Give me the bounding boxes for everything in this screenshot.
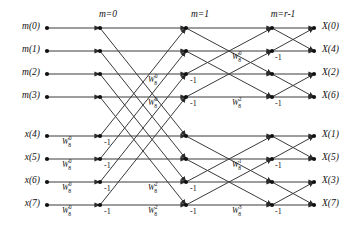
- flow-node: [98, 49, 102, 53]
- flow-node: [184, 49, 188, 53]
- flow-node: [98, 134, 102, 138]
- input-label-5: x(5): [2, 153, 40, 163]
- minus-one-label-0: -1: [104, 139, 111, 147]
- twiddle-exponent: 0: [69, 181, 72, 187]
- output-label-0: X(0): [322, 22, 339, 32]
- output-label-2: X(2): [322, 68, 339, 78]
- minus-one-label-6: -1: [190, 185, 197, 193]
- twiddle-subscript: 8: [154, 211, 157, 217]
- stage-header-0: m=0: [88, 9, 128, 19]
- flow-graph-canvas: [0, 0, 351, 233]
- input-label-0: m(0): [2, 22, 40, 32]
- twiddle-label-4: W08: [148, 74, 160, 86]
- twiddle-exponent: 2: [155, 181, 158, 187]
- flow-node: [45, 26, 49, 30]
- flow-node: [312, 203, 316, 207]
- twiddle-exponent: 0: [155, 73, 158, 79]
- twiddle-exponent: 0: [239, 50, 242, 56]
- flow-node: [312, 26, 316, 30]
- flow-node: [270, 26, 274, 30]
- minus-one-label-1: -1: [104, 162, 111, 170]
- twiddle-subscript: 8: [238, 103, 241, 109]
- fft-flow-graph-figure: m(0)m(1)m(2)m(3)x(4)x(5)x(6)x(7) X(0)X(4…: [0, 0, 351, 233]
- twiddle-subscript: 8: [154, 188, 157, 194]
- twiddle-subscript: 8: [68, 211, 71, 217]
- flow-node: [184, 134, 188, 138]
- flow-node: [45, 203, 49, 207]
- input-label-7: x(7): [2, 199, 40, 209]
- input-label-3: m(3): [2, 91, 40, 101]
- twiddle-exponent: 0: [69, 204, 72, 210]
- flow-node: [312, 180, 316, 184]
- twiddle-subscript: 8: [154, 80, 157, 86]
- output-label-1: X(4): [322, 45, 339, 55]
- twiddle-label-1: W08: [62, 159, 74, 171]
- flow-node: [312, 72, 316, 76]
- twiddle-subscript: 8: [68, 142, 71, 148]
- twiddle-exponent: 2: [239, 96, 242, 102]
- flow-node: [98, 180, 102, 184]
- twiddle-label-3: W08: [62, 205, 74, 217]
- flow-node: [45, 49, 49, 53]
- flow-node: [98, 72, 102, 76]
- flow-node: [184, 72, 188, 76]
- twiddle-label-2: W08: [62, 182, 74, 194]
- flow-node: [270, 49, 274, 53]
- flow-node: [45, 157, 49, 161]
- twiddle-exponent: 3: [239, 204, 242, 210]
- twiddle-exponent: 1: [239, 158, 242, 164]
- flow-node: [270, 157, 274, 161]
- flow-node: [98, 157, 102, 161]
- stage-header-2: m=r-1: [263, 9, 303, 19]
- flow-node: [312, 157, 316, 161]
- flow-node: [184, 95, 188, 99]
- flow-node: [98, 26, 102, 30]
- minus-one-label-9: -1: [275, 100, 282, 108]
- twiddle-label-6: W28: [148, 182, 160, 194]
- output-label-7: X(7): [322, 199, 339, 209]
- twiddle-label-5: W08: [148, 97, 160, 109]
- minus-one-label-7: -1: [190, 208, 197, 216]
- output-label-6: X(3): [322, 176, 339, 186]
- twiddle-exponent: 2: [155, 204, 158, 210]
- flow-node: [45, 180, 49, 184]
- flow-node: [184, 157, 188, 161]
- flow-node: [184, 203, 188, 207]
- flow-node: [45, 95, 49, 99]
- twiddle-label-10: W18: [232, 159, 244, 171]
- minus-one-label-11: -1: [275, 208, 282, 216]
- twiddle-subscript: 8: [238, 211, 241, 217]
- flow-node: [270, 72, 274, 76]
- output-label-5: X(5): [322, 153, 339, 163]
- flow-node: [270, 203, 274, 207]
- twiddle-label-8: W08: [232, 51, 244, 63]
- flow-graph-edges: [47, 28, 314, 205]
- twiddle-exponent: 0: [69, 158, 72, 164]
- minus-one-label-5: -1: [190, 100, 197, 108]
- input-label-4: x(4): [2, 130, 40, 140]
- stage-header-1: m=1: [180, 9, 220, 19]
- flow-node: [98, 95, 102, 99]
- input-label-2: m(2): [2, 68, 40, 78]
- flow-node: [270, 134, 274, 138]
- twiddle-label-7: W28: [148, 205, 160, 217]
- twiddle-label-0: W08: [62, 136, 74, 148]
- minus-one-label-3: -1: [104, 208, 111, 216]
- twiddle-subscript: 8: [68, 188, 71, 194]
- flow-node: [312, 134, 316, 138]
- twiddle-subscript: 8: [154, 103, 157, 109]
- flow-node: [45, 134, 49, 138]
- twiddle-exponent: 0: [155, 96, 158, 102]
- twiddle-subscript: 8: [68, 165, 71, 171]
- minus-one-label-8: -1: [275, 54, 282, 62]
- flow-node: [270, 95, 274, 99]
- minus-one-label-4: -1: [190, 77, 197, 85]
- twiddle-subscript: 8: [238, 57, 241, 63]
- output-label-3: X(6): [322, 91, 339, 101]
- flow-node: [312, 95, 316, 99]
- flow-node: [184, 26, 188, 30]
- twiddle-label-11: W38: [232, 205, 244, 217]
- twiddle-label-9: W28: [232, 97, 244, 109]
- output-label-4: X(1): [322, 130, 339, 140]
- flow-node: [184, 180, 188, 184]
